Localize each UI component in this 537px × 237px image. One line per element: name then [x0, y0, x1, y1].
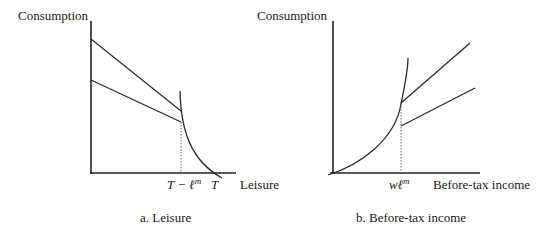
panel-a-caption: a. Leisure	[140, 210, 191, 225]
panel-a-x-axis-label: Leisure	[240, 177, 279, 192]
panel-b-tick-wlm: wℓm	[389, 176, 410, 192]
panel-b-before-tax-income: Consumption wℓm Before-tax income b. Bef…	[257, 8, 530, 225]
panel-b-x-axis-label: Before-tax income	[433, 177, 530, 192]
diagram-canvas: Consumption T − ℓm T Leisure a. Leisure …	[0, 0, 537, 237]
panel-b-y-axis-label: Consumption	[257, 8, 328, 23]
panel-a-indifference-curve	[180, 91, 222, 178]
panel-a-tick-t-minus-lm: T − ℓm	[167, 176, 202, 192]
panel-a-upper-budget-line	[91, 39, 181, 111]
panel-a-leisure: Consumption T − ℓm T Leisure a. Leisure	[18, 8, 279, 225]
panel-b-upper-budget-line	[401, 43, 470, 103]
panel-b-caption: b. Before-tax income	[356, 210, 466, 225]
panel-a-tick-t: T	[211, 177, 219, 192]
panel-b-indifference-curve	[328, 58, 408, 175]
panel-a-y-axis-label: Consumption	[18, 8, 89, 23]
